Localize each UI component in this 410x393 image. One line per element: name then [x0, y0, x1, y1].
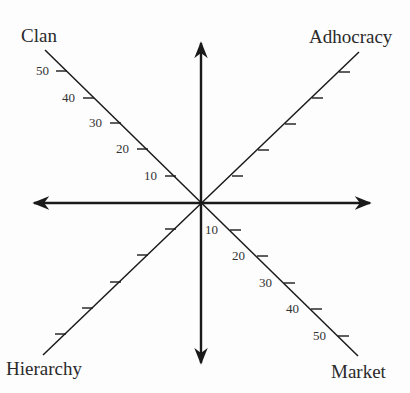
clan-tick-label: 20	[116, 141, 129, 157]
adhocracy-ticks	[232, 72, 350, 176]
market-tick-label: 30	[259, 275, 272, 291]
clan-tick-label: 40	[62, 90, 75, 106]
clan-tick-label: 30	[89, 115, 102, 131]
market-tick-label: 50	[313, 328, 326, 344]
market-tick-label: 40	[286, 301, 299, 317]
market-tick-label: 20	[232, 248, 245, 264]
market-ticks	[230, 230, 349, 336]
market-tick-label: 10	[205, 222, 218, 238]
hierarchy-label: Hierarchy	[6, 358, 82, 380]
clan-tick-label: 10	[144, 168, 157, 184]
adhocracy-label: Adhocracy	[309, 26, 392, 48]
market-label: Market	[331, 361, 386, 383]
competing-values-diagram: Clan Adhocracy Hierarchy Market 50 40 30…	[0, 0, 410, 393]
clan-tick-label: 50	[36, 63, 49, 79]
axes-graphic	[0, 0, 410, 393]
clan-label: Clan	[21, 25, 57, 47]
